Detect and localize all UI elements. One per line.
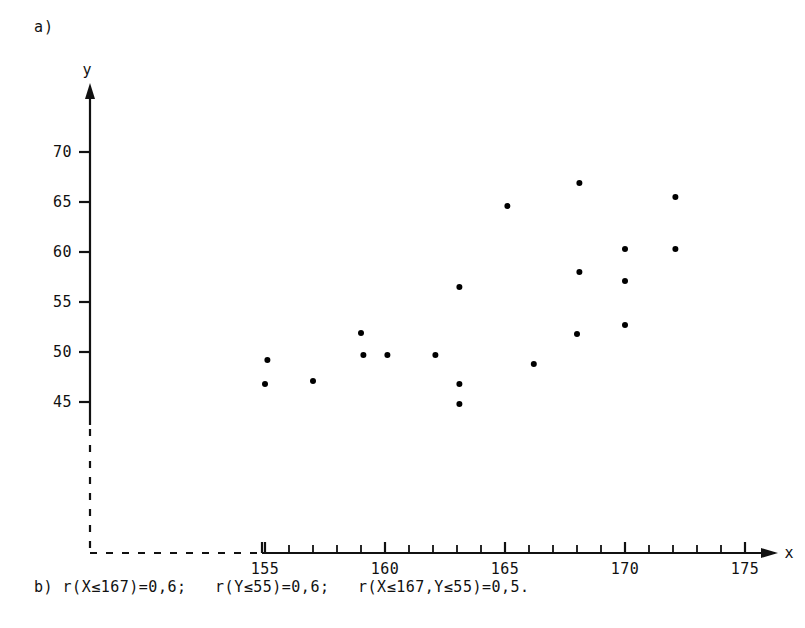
data-point (456, 284, 462, 290)
y-tick-label: 45 (53, 393, 72, 411)
x-tick-label: 175 (731, 560, 760, 578)
panel-b-caption: b) r(X≤167)=0,6; r(Y≤55)=0,6; r(X≤167,Y≤… (34, 578, 530, 596)
data-point (622, 278, 628, 284)
data-point (531, 361, 537, 367)
data-point (574, 331, 580, 337)
data-point (504, 203, 510, 209)
x-tick-label: 160 (371, 560, 400, 578)
data-point (576, 180, 582, 186)
axis-names-group: yx (82, 61, 793, 562)
data-point (384, 352, 390, 358)
y-tick-label: 55 (53, 293, 72, 311)
y-tick-label: 65 (53, 193, 72, 211)
data-point (672, 194, 678, 200)
data-point (672, 246, 678, 252)
y-tick-label: 60 (53, 243, 72, 261)
data-point (456, 381, 462, 387)
data-point (264, 357, 270, 363)
y-tick-label: 70 (53, 143, 72, 161)
data-point (310, 378, 316, 384)
data-point (622, 246, 628, 252)
axes-group (85, 83, 778, 558)
data-point (358, 330, 364, 336)
data-point (360, 352, 366, 358)
x-axis-arrowhead (761, 548, 778, 558)
data-point (576, 269, 582, 275)
data-point (622, 322, 628, 328)
ticks-group (79, 152, 745, 553)
scatter-plot: 155160165170175455055606570 yx (0, 0, 805, 628)
figure-page: a) 155160165170175455055606570 yx b) r(X… (0, 0, 805, 628)
x-tick-label: 170 (611, 560, 640, 578)
x-tick-label: 155 (251, 560, 280, 578)
data-point (432, 352, 438, 358)
data-point (262, 381, 268, 387)
data-point (456, 401, 462, 407)
y-tick-label: 50 (53, 343, 72, 361)
x-axis-label: x (784, 544, 793, 562)
data-points-group (262, 180, 678, 407)
y-axis-arrowhead (85, 83, 95, 99)
y-axis-label: y (82, 61, 91, 79)
x-tick-label: 165 (491, 560, 520, 578)
tick-labels-group: 155160165170175455055606570 (53, 143, 759, 578)
